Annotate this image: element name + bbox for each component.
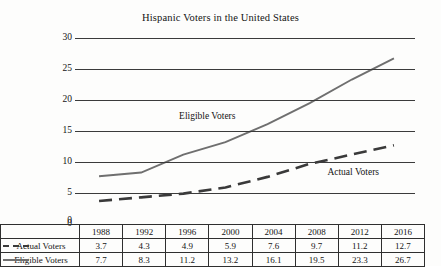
gridline-30 xyxy=(78,38,415,39)
table-cell: 19.5 xyxy=(295,253,338,267)
table-cell: 9.7 xyxy=(295,239,338,253)
table-year-header-2004: 2004 xyxy=(252,225,295,239)
y-tick-label-30: 30 xyxy=(44,32,72,42)
table-cell: 11.2 xyxy=(338,239,381,253)
annotation-actual-voters: Actual Voters xyxy=(327,167,379,177)
table-cell: 8.3 xyxy=(123,253,166,267)
table-year-header-1996: 1996 xyxy=(166,225,209,239)
table-cell: 4.9 xyxy=(166,239,209,253)
table-row-label-actual-voters: Actual Voters xyxy=(1,239,80,253)
table-year-header-2008: 2008 xyxy=(295,225,338,239)
table-cell: 12.7 xyxy=(381,239,424,253)
data-table-container: 19881992199620002004200820122016 Actual … xyxy=(0,224,441,267)
y-tick-label-20: 20 xyxy=(44,94,72,104)
table-cell: 4.3 xyxy=(123,239,166,253)
table-row-label-eligible-voters: Eligible Voters xyxy=(1,253,80,267)
y-tick-label-10: 10 xyxy=(44,156,72,166)
table-cell: 26.7 xyxy=(381,253,424,267)
table-year-header-2000: 2000 xyxy=(209,225,252,239)
y-tick-label-zero: 0 xyxy=(42,215,72,225)
table-cell: 11.2 xyxy=(166,253,209,267)
series-line-eligible-voters xyxy=(99,58,394,176)
table-year-header-1992: 1992 xyxy=(123,225,166,239)
y-axis: 302520151050 xyxy=(42,38,72,224)
page-title: Hispanic Voters in the United States xyxy=(0,12,441,23)
y-tick-label-5: 5 xyxy=(44,187,72,197)
table-cell: 16.1 xyxy=(252,253,295,267)
table-header-row: 19881992199620002004200820122016 xyxy=(1,225,425,239)
annotation-eligible-voters: Eligible Voters xyxy=(179,111,235,121)
gridline-15 xyxy=(78,131,415,132)
solid-line-icon xyxy=(3,259,29,261)
table-year-header-2016: 2016 xyxy=(381,225,424,239)
gridline-20 xyxy=(78,100,415,101)
table-year-header-1988: 1988 xyxy=(80,225,123,239)
table-corner-cell xyxy=(1,225,80,239)
table-year-header-2012: 2012 xyxy=(338,225,381,239)
gridline-10 xyxy=(78,162,415,163)
dashed-line-icon xyxy=(3,245,29,247)
table-cell: 3.7 xyxy=(80,239,123,253)
table-cell: 7.7 xyxy=(80,253,123,267)
plot-area: Eligible VotersActual Voters xyxy=(78,38,415,224)
table-cell: 23.3 xyxy=(338,253,381,267)
data-table: 19881992199620002004200820122016 Actual … xyxy=(0,224,425,267)
gridline-25 xyxy=(78,69,415,70)
y-tick-label-25: 25 xyxy=(44,63,72,73)
table-cell: 7.6 xyxy=(252,239,295,253)
y-tick-label-15: 15 xyxy=(44,125,72,135)
gridline-5 xyxy=(78,193,415,194)
table-row: Eligible Voters7.78.311.213.216.119.523.… xyxy=(1,253,425,267)
table-row: Actual Voters3.74.34.95.97.69.711.212.7 xyxy=(1,239,425,253)
table-cell: 13.2 xyxy=(209,253,252,267)
table-cell: 5.9 xyxy=(209,239,252,253)
